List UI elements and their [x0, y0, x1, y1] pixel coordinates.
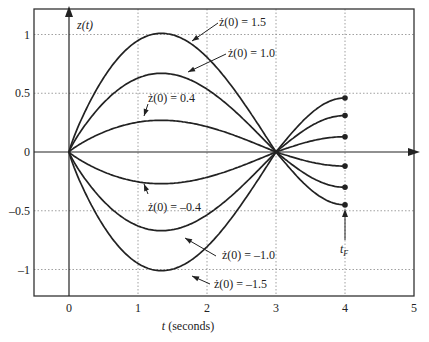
tF-arrow-head-icon — [342, 209, 348, 217]
x-tick-label: 5 — [411, 301, 417, 315]
y-tick-label: 0 — [24, 145, 30, 159]
endpoint-dot — [342, 184, 348, 190]
endpoint-dot — [342, 163, 348, 169]
endpoint-dot — [342, 95, 348, 101]
arrowhead-icon — [192, 35, 199, 41]
annotations: ż(0) = 1.5ż(0) = 1.0ż(0) = 0.4ż(0) = –0.… — [148, 15, 275, 291]
y-tick-label: 0.5 — [15, 86, 30, 100]
endpoint-dot — [342, 202, 348, 208]
arrowhead-icon — [144, 184, 149, 191]
y-tick-label: 1 — [24, 28, 30, 42]
series-annotation: ż(0) = 1.5 — [219, 15, 266, 29]
series-annotation: ż(0) = –1.0 — [222, 248, 275, 262]
z-axis-arrow-icon — [65, 6, 73, 17]
arrowhead-icon — [188, 67, 195, 72]
arrowhead-icon — [185, 238, 192, 244]
x-tick-label: 2 — [204, 301, 210, 315]
t-axis-label-rest: (seconds) — [165, 319, 214, 333]
x-tick-label: 3 — [273, 301, 279, 315]
y-tick-labels: 10.50–0.5–1 — [8, 28, 30, 277]
annotation-arrows — [144, 23, 226, 284]
series-annotation: ż(0) = –0.4 — [148, 200, 201, 214]
endpoint-dot — [342, 113, 348, 119]
t-axis-label: t (seconds) — [162, 319, 214, 333]
z-axis-label: z(t) — [76, 18, 93, 32]
series-annotation: ż(0) = –1.5 — [214, 277, 267, 291]
arrowhead-icon — [144, 109, 149, 116]
y-tick-label: –1 — [17, 263, 30, 277]
y-tick-label: –0.5 — [8, 204, 30, 218]
tF-label: tF — [340, 242, 348, 258]
x-tick-label: 1 — [135, 301, 141, 315]
x-tick-labels: 012345 — [66, 301, 417, 315]
series-line — [69, 73, 345, 152]
series-annotation: ż(0) = 0.4 — [148, 91, 195, 105]
x-tick-label: 4 — [342, 301, 348, 315]
series-line — [69, 152, 345, 271]
arrowhead-icon — [192, 276, 199, 281]
chart: 10.50–0.5–1 012345 ż(0) = 1.5ż(0) = 1.0ż… — [0, 0, 429, 342]
endpoint-dot — [342, 134, 348, 140]
series-annotation: ż(0) = 1.0 — [228, 46, 275, 60]
x-tick-label: 0 — [66, 301, 72, 315]
